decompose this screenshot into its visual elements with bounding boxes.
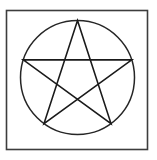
pentagram-figure xyxy=(0,0,157,160)
square-border xyxy=(7,11,148,150)
figure-canvas xyxy=(0,0,157,160)
